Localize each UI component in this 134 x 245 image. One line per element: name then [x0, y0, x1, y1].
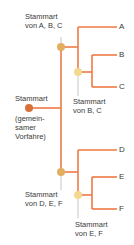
- leaf-a: A: [119, 22, 124, 31]
- node-abc: [57, 43, 65, 51]
- leaf-c: C: [119, 82, 125, 91]
- node-bc: [74, 68, 82, 76]
- leaf-f: F: [119, 204, 124, 213]
- leaf-e: E: [119, 172, 124, 181]
- leaf-d: D: [119, 145, 125, 154]
- label-node-ef: Stammartvon E, F: [75, 220, 108, 238]
- label-node-bc: Stammartvon B, C: [73, 97, 106, 115]
- root-node: [25, 104, 33, 112]
- leaf-b: B: [119, 50, 124, 59]
- label-node-abc: Stammartvon A, B, C: [25, 12, 63, 30]
- label-node-def: Stammartvon D, E, F: [25, 190, 63, 208]
- node-def: [57, 168, 65, 176]
- label-root: Stammart: [15, 94, 48, 103]
- label-root-desc: (gemein-samerVorfahre): [15, 114, 46, 141]
- node-ef: [74, 191, 82, 199]
